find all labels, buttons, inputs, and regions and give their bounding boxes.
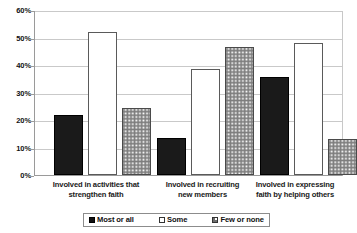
bar-some-expressing <box>294 43 323 175</box>
legend-swatch-few-or-none-icon <box>212 217 218 223</box>
y-tick-label-40: 40% <box>3 62 31 70</box>
gridline-50 <box>35 39 342 40</box>
legend-swatch-most-or-all-icon <box>89 217 95 223</box>
x-axis-label-expressing-line2: faith by helping others <box>241 190 349 200</box>
y-tick-label-0: 0% <box>3 172 31 180</box>
legend-label-most-or-all: Most or all <box>97 216 134 224</box>
bar-most-or-all-activities <box>54 115 83 176</box>
legend-item-some: Some <box>159 216 187 224</box>
plot-area <box>34 11 343 176</box>
x-axis-labels: Involved in activities that strengthen f… <box>34 180 343 206</box>
chart-legend: Most or all Some Few or none <box>83 213 270 227</box>
gridline-60 <box>35 11 342 12</box>
y-tick-label-50: 50% <box>3 35 31 43</box>
y-tick-label-30: 30% <box>3 90 31 98</box>
y-tick-label-60: 60% <box>3 7 31 15</box>
legend-item-few-or-none: Few or none <box>212 216 264 224</box>
y-tick-mark-0 <box>30 176 34 177</box>
x-axis-label-recruiting-line1: Involved in recruiting <box>166 180 240 189</box>
legend-swatch-some-icon <box>159 217 165 223</box>
x-axis-label-expressing: Involved in expressing faith by helping … <box>241 180 349 199</box>
y-tick-label-20: 20% <box>3 117 31 125</box>
bar-most-or-all-expressing <box>260 77 289 175</box>
bar-few-or-none-activities <box>122 108 151 175</box>
y-axis: 60% 50% 40% 30% 20% 10% 0% <box>0 0 31 233</box>
legend-label-some: Some <box>167 216 187 224</box>
legend-item-most-or-all: Most or all <box>89 216 134 224</box>
bar-some-activities <box>88 32 117 175</box>
x-axis-label-expressing-line1: Involved in expressing <box>256 180 335 189</box>
bar-few-or-none-recruiting <box>225 47 254 175</box>
y-tick-label-10: 10% <box>3 145 31 153</box>
x-axis-label-activities-line1: Involved in activities that <box>53 180 139 189</box>
bar-some-recruiting <box>191 69 220 175</box>
bar-most-or-all-recruiting <box>157 138 186 175</box>
legend-label-few-or-none: Few or none <box>220 216 264 224</box>
bar-few-or-none-expressing <box>328 139 357 175</box>
